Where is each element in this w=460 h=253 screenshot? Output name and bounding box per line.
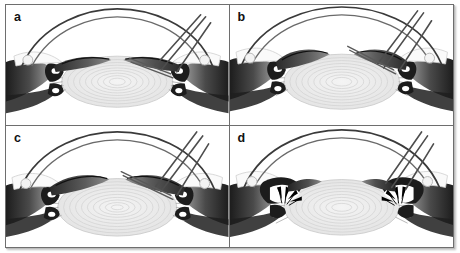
panel-c: c — [6, 126, 230, 247]
panel-a: a — [6, 5, 230, 126]
panel-a-label: a — [14, 11, 21, 24]
panel-d: d — [230, 126, 454, 247]
panel-a-illustration — [6, 5, 229, 125]
panel-b-illustration — [230, 5, 454, 125]
figure-root: a — [0, 0, 460, 253]
panel-b: b — [230, 5, 454, 126]
panel-d-label: d — [238, 132, 246, 145]
panel-b-label: b — [238, 11, 246, 24]
figure-frame: a — [5, 4, 454, 248]
panel-grid: a — [6, 5, 453, 247]
panel-c-label: c — [14, 132, 21, 145]
panel-c-illustration — [6, 126, 229, 247]
panel-d-illustration — [230, 126, 454, 247]
